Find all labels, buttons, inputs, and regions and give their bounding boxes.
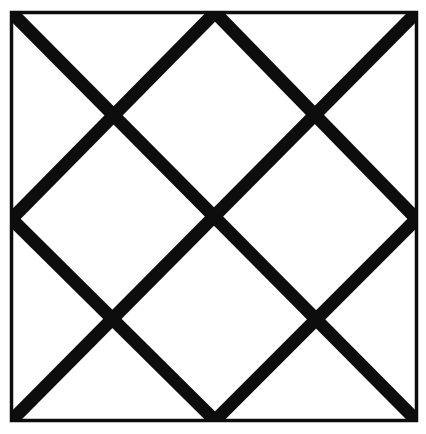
diagonal-lattice-figure: Diagonal lattice inscribed in a square A… [0, 0, 426, 434]
figure-container: Diagonal lattice inscribed in a square A… [0, 0, 426, 434]
